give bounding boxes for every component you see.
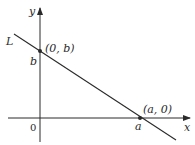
coordinate-diagram: y x 0 L b (0, b) a (a, 0)	[0, 0, 195, 145]
origin-label: 0	[30, 122, 36, 133]
x-intercept-tick-label: a	[135, 120, 142, 133]
x-intercept-point-label: (a, 0)	[143, 103, 172, 116]
x-axis-label: x	[184, 121, 191, 134]
y-intercept-tick-label: b	[30, 55, 37, 68]
line-l	[14, 34, 176, 140]
y-intercept-point	[38, 49, 42, 53]
y-intercept-point-label: (0, b)	[45, 42, 75, 55]
line-l-label: L	[5, 35, 13, 48]
y-axis-label: y	[28, 5, 36, 18]
